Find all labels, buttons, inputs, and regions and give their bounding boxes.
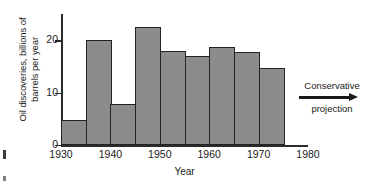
oil-discoveries-bar-chart: Oil discoveries, billions of barrels per…: [0, 0, 369, 186]
x-axis-line: [61, 145, 308, 147]
y-axis-title-line-2: barrels per year: [28, 0, 40, 145]
y-axis-title: Oil discoveries, billions of barrels per…: [17, 0, 40, 145]
x-tick-label-1950: 1950: [148, 148, 171, 160]
page-edge-artifact-bottom: [3, 176, 6, 181]
page-edge-artifact-top: [3, 150, 6, 159]
x-tick-label-1940: 1940: [99, 148, 122, 160]
y-tick-label: 20: [46, 33, 58, 45]
x-tick-label-1970: 1970: [247, 148, 270, 160]
arrow-shaft: [299, 96, 351, 98]
bar-1950-1955: [160, 51, 186, 145]
bar-1960-1965: [209, 47, 235, 146]
conservative-projection-annotation: Conservative projection: [296, 80, 368, 115]
bar-1930-1935: [61, 120, 87, 145]
y-axis-title-line-1: Oil discoveries, billions of: [17, 0, 29, 145]
x-tick-label-1960: 1960: [198, 148, 221, 160]
bar-1940-1945: [110, 104, 136, 145]
bar-1945-1950: [135, 27, 161, 145]
right-arrow-icon: [296, 93, 368, 102]
bar-1970-1975: [259, 68, 285, 145]
annotation-line-1: Conservative: [296, 80, 368, 92]
arrow-head: [349, 93, 358, 101]
x-axis-title: Year: [61, 166, 308, 177]
bar-1955-1960: [185, 56, 211, 145]
bar-1965-1970: [234, 52, 260, 145]
bar-1935-1940: [86, 40, 112, 145]
plot-area: 01020 193019401950196019701980: [61, 14, 308, 146]
x-tick-label-1980: 1980: [296, 148, 319, 160]
x-tick-label-1930: 1930: [49, 148, 72, 160]
annotation-line-2: projection: [296, 103, 368, 115]
y-tick-label: 10: [46, 86, 58, 98]
